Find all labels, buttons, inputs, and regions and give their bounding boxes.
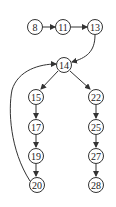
node-label: 27 xyxy=(91,151,101,162)
node-22: 22 xyxy=(89,90,104,105)
edge-14-22 xyxy=(70,71,90,89)
node-8: 8 xyxy=(28,20,43,35)
node-label: 20 xyxy=(32,180,42,191)
edges xyxy=(10,27,96,181)
edge-14-15 xyxy=(41,71,58,89)
control-flow-graph: 8 11 13 14 15 17 19 20 xyxy=(0,0,116,207)
node-20: 20 xyxy=(30,178,45,193)
node-label: 8 xyxy=(33,22,38,33)
node-15: 15 xyxy=(29,90,44,105)
node-label: 17 xyxy=(31,122,41,133)
node-28: 28 xyxy=(89,178,104,193)
node-11: 11 xyxy=(56,20,71,35)
node-label: 14 xyxy=(59,60,69,71)
nodes: 8 11 13 14 15 17 19 20 xyxy=(28,20,104,193)
edge-13-14 xyxy=(72,35,95,62)
node-19: 19 xyxy=(29,149,44,164)
node-label: 22 xyxy=(91,92,101,103)
node-25: 25 xyxy=(89,120,104,135)
node-label: 25 xyxy=(91,122,101,133)
node-label: 19 xyxy=(31,151,41,162)
node-27: 27 xyxy=(89,149,104,164)
node-14: 14 xyxy=(57,58,72,73)
node-label: 11 xyxy=(58,22,68,33)
node-17: 17 xyxy=(29,120,44,135)
node-label: 13 xyxy=(90,22,100,33)
node-13: 13 xyxy=(88,20,103,35)
node-label: 28 xyxy=(91,180,101,191)
node-label: 15 xyxy=(31,92,41,103)
